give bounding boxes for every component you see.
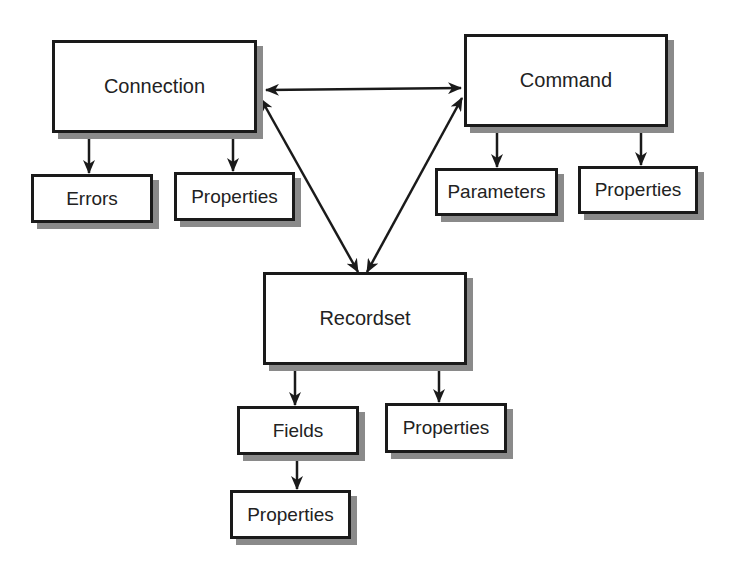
recordset-fields-label: Fields [273,420,324,442]
recordset-label: Recordset [319,307,410,330]
connection-node: Connection [52,40,257,133]
object-model-diagram: Connection Command Recordset Errors Prop… [0,0,730,573]
connection-label: Connection [104,75,205,98]
arrow-connection-command [266,88,461,90]
connection-properties-node: Properties [174,172,295,221]
connection-properties-label: Properties [191,186,278,208]
fields-properties-label: Properties [247,504,334,526]
command-parameters-node: Parameters [435,168,558,216]
command-parameters-label: Parameters [447,181,545,203]
recordset-fields-node: Fields [237,406,359,455]
command-node: Command [464,34,668,127]
recordset-properties-node: Properties [385,403,507,453]
connection-errors-label: Errors [66,188,118,210]
recordset-properties-label: Properties [403,417,490,439]
command-label: Command [520,69,612,92]
command-properties-label: Properties [595,179,682,201]
connection-errors-node: Errors [31,174,153,223]
recordset-node: Recordset [263,272,467,365]
fields-properties-node: Properties [230,490,351,539]
command-properties-node: Properties [578,166,698,214]
